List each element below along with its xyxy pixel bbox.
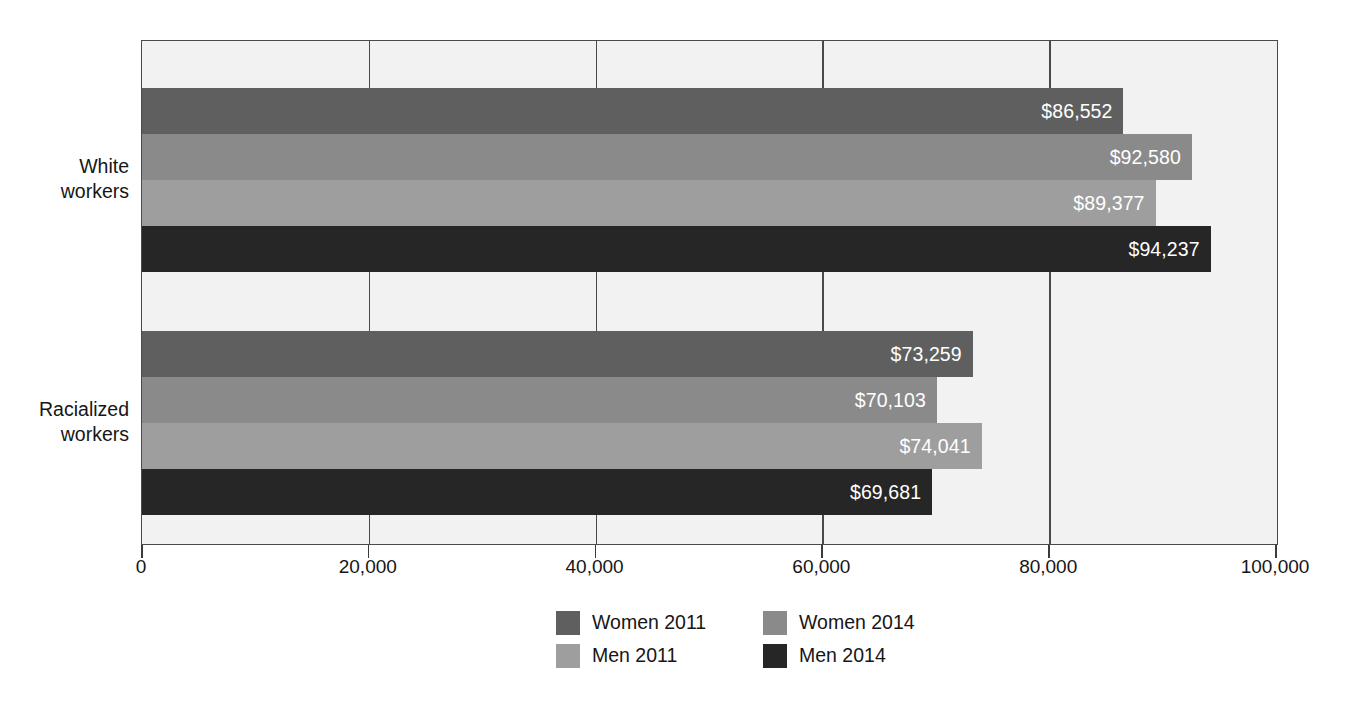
legend-swatch-icon [556,611,580,635]
x-tick-label: 80,000 [1019,556,1077,578]
legend-label: Women 2014 [799,611,915,634]
bar: $70,103 [142,377,937,423]
legend-swatch-icon [763,644,787,668]
bar-value-label: $69,681 [850,481,932,504]
category-label-line-1: Racialized [39,397,129,422]
legend: Women 2011Women 2014Men 2011Men 2014 [556,606,976,672]
x-tick-label: 0 [136,556,147,578]
bar: $94,237 [142,226,1211,272]
category-label-racialized-workers: Racialized workers [39,397,129,447]
legend-swatch-icon [556,644,580,668]
bar: $89,377 [142,180,1156,226]
legend-item: Men 2014 [763,644,970,668]
bar: $86,552 [142,88,1123,134]
x-tick-label: 60,000 [792,556,850,578]
category-label-line-2: workers [39,422,129,447]
legend-label: Men 2011 [592,644,677,667]
category-label-line-2: workers [61,179,129,204]
bar-value-label: $73,259 [891,343,973,366]
bar-value-label: $92,580 [1110,146,1192,169]
legend-item: Women 2014 [763,611,970,635]
legend-item: Men 2011 [556,644,763,668]
bar: $69,681 [142,469,932,515]
bar-value-label: $89,377 [1073,192,1155,215]
x-tick-label: 20,000 [339,556,397,578]
legend-label: Women 2011 [592,611,706,634]
category-label-line-1: White [61,154,129,179]
category-label-white-workers: White workers [61,154,129,204]
legend-row: Women 2011Women 2014 [556,606,976,639]
legend-swatch-icon [763,611,787,635]
legend-row: Men 2011Men 2014 [556,639,976,672]
bar-value-label: $74,041 [899,435,981,458]
plot-area: $86,552$92,580$89,377$94,237$73,259$70,1… [141,40,1278,545]
bar-value-label: $70,103 [855,389,937,412]
bar: $74,041 [142,423,982,469]
bar: $73,259 [142,331,973,377]
legend-label: Men 2014 [799,644,886,667]
legend-item: Women 2011 [556,611,763,635]
x-tick-label: 40,000 [566,556,624,578]
bar-value-label: $94,237 [1128,238,1210,261]
bar-chart-figure: $86,552$92,580$89,377$94,237$73,259$70,1… [0,0,1361,706]
bar: $92,580 [142,134,1192,180]
x-tick-label: 100,000 [1241,556,1310,578]
bar-value-label: $86,552 [1041,100,1123,123]
